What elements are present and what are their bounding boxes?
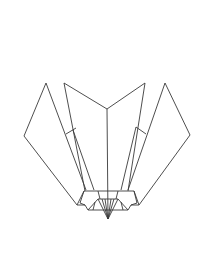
right-inner-panel bbox=[107, 83, 146, 191]
right-outer-flap bbox=[128, 83, 190, 205]
left-outer-flap bbox=[24, 83, 86, 205]
diagram-canvas bbox=[0, 0, 207, 255]
origami-diagram bbox=[0, 0, 207, 255]
left-inner-panel bbox=[64, 83, 107, 191]
center-crease bbox=[107, 109, 108, 219]
